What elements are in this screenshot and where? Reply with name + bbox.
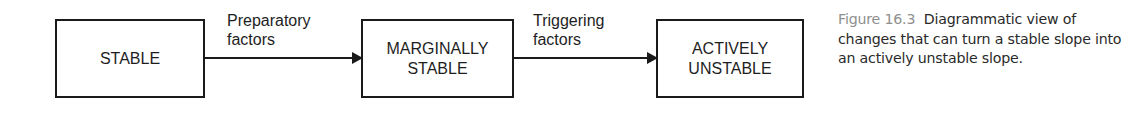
label-line: Triggering <box>533 11 604 30</box>
arrow-label-triggering: Triggering factors <box>533 11 604 49</box>
box-actively-label-2: UNSTABLE <box>688 59 771 79</box>
arrow-label-preparatory: Preparatory factors <box>227 11 311 49</box>
label-line: factors <box>227 30 311 49</box>
box-marginally-label-1: MARGINALLY <box>387 39 489 59</box>
box-stable-label: STABLE <box>100 49 160 69</box>
box-marginally-label-2: STABLE <box>387 59 489 79</box>
box-actively-unstable: ACTIVELY UNSTABLE <box>656 19 804 98</box>
figure-caption: Figure 16.3 Diagrammatic view of changes… <box>838 10 1138 69</box>
label-line: Preparatory <box>227 11 311 30</box>
arrow-triggering <box>513 57 656 59</box>
label-line: factors <box>533 30 604 49</box>
box-marginally-stable: MARGINALLY STABLE <box>361 19 514 98</box>
box-actively-label-1: ACTIVELY <box>688 39 771 59</box>
figure-number: Figure 16.3 <box>838 11 915 27</box>
box-stable: STABLE <box>55 19 205 98</box>
arrow-preparatory <box>204 57 361 59</box>
